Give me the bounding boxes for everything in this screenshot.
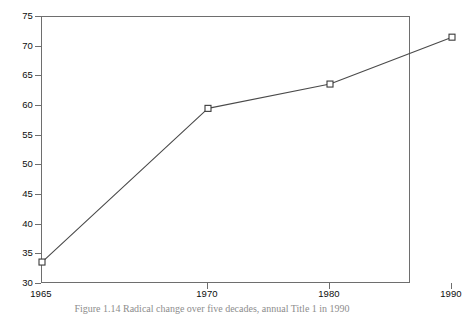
y-tick-label: 70	[3, 41, 33, 51]
y-tick-label: 45	[3, 189, 33, 199]
line-series-svg	[42, 17, 411, 284]
data-point-marker	[205, 105, 211, 111]
data-point-marker	[327, 81, 333, 87]
y-tick-label: 75	[3, 11, 33, 21]
data-point-marker	[449, 34, 455, 40]
data-point-marker	[39, 259, 45, 265]
y-tick-mark	[35, 283, 41, 284]
y-tick-label: 30	[3, 278, 33, 288]
figure-caption: Figure 1.14 Radical change over five dec…	[0, 303, 424, 314]
y-tick-label: 65	[3, 70, 33, 80]
series-markers	[39, 34, 455, 265]
series-line	[42, 37, 452, 262]
y-tick-label: 35	[3, 248, 33, 258]
y-tick-label: 40	[3, 219, 33, 229]
y-tick-label: 50	[3, 159, 33, 169]
plot-area	[41, 16, 410, 283]
y-tick-label: 60	[3, 100, 33, 110]
x-tick-label: 1965	[18, 289, 64, 299]
x-tick-label: 1990	[428, 289, 466, 299]
y-tick-label: 55	[3, 130, 33, 140]
x-tick-label: 1980	[306, 289, 352, 299]
x-tick-mark	[451, 283, 452, 289]
x-tick-label: 1970	[184, 289, 230, 299]
